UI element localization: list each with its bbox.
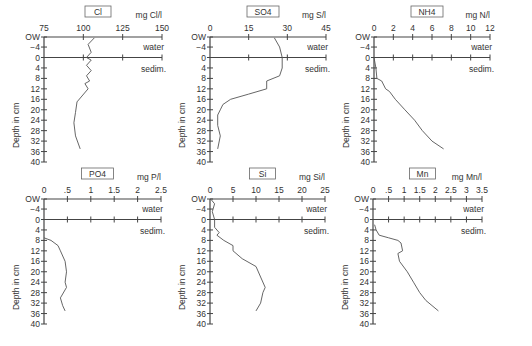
chart-po4-ytick-label: 8: [35, 235, 40, 245]
chart-mn-ytick-label: 40: [360, 319, 370, 329]
chart-mn-ytick-label: 32: [360, 298, 370, 308]
chart-mn-ytick-label: 20: [360, 267, 370, 277]
chart-mn-ytick-label: 28: [360, 288, 370, 298]
chart-cl-ytick-label: 40: [31, 157, 41, 167]
chart-cl-ytick-label: 0: [35, 53, 40, 63]
chart-po4-sediment-label: sedim.: [140, 226, 165, 236]
chart-cl-ytick-label: 12: [31, 84, 41, 94]
chart-so4-ytick-label: 16: [197, 94, 207, 104]
chart-si-ytick-label: 20: [197, 267, 207, 277]
chart-so4-unit: mg S/l: [302, 10, 326, 20]
chart-si-title: Si: [259, 169, 267, 179]
chart-so4-water-label: water: [306, 42, 328, 52]
chart-si-xtick-label: 0: [208, 185, 213, 195]
chart-so4-xtick-label: 30: [283, 23, 293, 33]
chart-nh4-ytick-label: 36: [361, 147, 371, 157]
chart-so4-ytick-label: −4: [196, 42, 206, 52]
chart-nh4-xtick-label: 0: [372, 23, 377, 33]
chart-cl-xtick-label: 150: [155, 23, 169, 33]
chart-po4-ytick-label: OW: [25, 194, 40, 204]
chart-so4-xtick-label: 45: [321, 23, 331, 33]
chart-so4-xtick-label: 0: [208, 23, 213, 33]
chart-so4-ytick-label: 40: [197, 157, 207, 167]
chart-po4-xtick-label: 1: [88, 185, 93, 195]
chart-po4-ytick-label: 24: [31, 277, 41, 287]
chart-nh4-xtick-label: 12: [485, 23, 495, 33]
chart-nh4-ytick-label: 32: [361, 136, 371, 146]
chart-nh4-sediment-label: sedim.: [469, 64, 494, 74]
chart-nh4-ytick-label: −4: [360, 42, 370, 52]
chart-po4-profile-line: [44, 238, 67, 311]
chart-po4-ytick-label: 4: [35, 225, 40, 235]
chart-mn-ytick-label: −4: [359, 204, 369, 214]
chart-so4-ytick-label: 28: [197, 126, 207, 136]
chart-nh4-ytick-label: 20: [361, 105, 371, 115]
chart-nh4-ytick-label: OW: [355, 32, 370, 42]
chart-mn-xtick-label: 2: [433, 185, 438, 195]
chart-nh4-ytick-label: 24: [361, 115, 371, 125]
chart-cl-ytick-label: 8: [35, 73, 40, 83]
chart-po4-xtick-label: 1.5: [108, 185, 120, 195]
chart-mn-ytick-label: 0: [364, 215, 369, 225]
chart-nh4-ytick-label: 16: [361, 94, 371, 104]
chart-mn-xtick-label: 1: [402, 185, 407, 195]
chart-nh4-xtick-label: 10: [466, 23, 476, 33]
chart-nh4-profile-line: [374, 58, 444, 149]
chart-mn-water-label: water: [462, 204, 484, 214]
chart-si-ylabel: Depth in cm: [177, 265, 187, 310]
chart-si-xtick-label: 25: [320, 185, 330, 195]
chart-mn-ytick-label: 4: [364, 225, 369, 235]
chart-po4-ytick-label: 16: [31, 256, 41, 266]
chart-nh4-ytick-label: 12: [361, 84, 371, 94]
chart-mn-xtick-label: 3: [464, 185, 469, 195]
chart-si-profile-line: [211, 200, 265, 311]
chart-cl-xtick-label: 125: [116, 23, 130, 33]
chart-mn-xtick-label: 1.5: [414, 185, 426, 195]
chart-mn-xtick-label: .5: [385, 185, 392, 195]
chart-si-ytick-label: OW: [191, 194, 206, 204]
chart-cl-water-label: water: [142, 42, 164, 52]
chart-cl-profile-line: [74, 38, 94, 149]
chart-nh4-ytick-label: 4: [365, 63, 370, 73]
chart-mn-ytick-label: 12: [360, 246, 370, 256]
chart-si-ytick-label: 28: [197, 288, 207, 298]
chart-so4-ytick-label: 20: [197, 105, 207, 115]
chart-si-ytick-label: 36: [197, 309, 207, 319]
chart-nh4-title: NH4: [418, 7, 435, 17]
chart-mn-ytick-label: 8: [364, 235, 369, 245]
chart-mn-profile-line: [375, 225, 439, 311]
chart-po4-ytick-label: 36: [31, 309, 41, 319]
chart-si-ytick-label: 12: [197, 246, 207, 256]
chart-so4-xtick-label: 15: [244, 23, 254, 33]
chart-mn-title: Mn: [417, 169, 429, 179]
chart-po4-ytick-label: 28: [31, 288, 41, 298]
chart-cl-ytick-label: 4: [35, 63, 40, 73]
chart-po4-water-label: water: [141, 204, 163, 214]
chart-cl-ytick-label: 28: [31, 126, 41, 136]
chart-si-sediment-label: sedim.: [304, 226, 329, 236]
chart-cl-ytick-label: 20: [31, 105, 41, 115]
chart-si-xtick-label: 20: [297, 185, 307, 195]
chart-so4-ytick-label: 32: [197, 136, 207, 146]
chart-mn-xtick-label: 0: [371, 185, 376, 195]
chart-po4-ytick-label: 20: [31, 267, 41, 277]
chart-so4-ytick-label: 36: [197, 147, 207, 157]
chart-cl-xtick-label: 75: [39, 23, 49, 33]
chart-mn-xtick-label: 2.5: [445, 185, 457, 195]
chart-nh4-unit: mg N/l: [465, 10, 490, 20]
chart-po4-ylabel: Depth in cm: [11, 265, 21, 310]
chart-cl-ytick-label: 16: [31, 94, 41, 104]
chart-cl-ytick-label: 24: [31, 115, 41, 125]
chart-nh4-ytick-label: 40: [361, 157, 371, 167]
chart-si-ytick-label: 0: [201, 215, 206, 225]
chart-po4-xtick-label: .5: [64, 185, 71, 195]
chart-cl-unit: mg Cl/l: [136, 10, 163, 20]
chart-nh4-ytick-label: 0: [365, 53, 370, 63]
chart-si-ytick-label: 24: [197, 277, 207, 287]
chart-po4-xtick-label: 2.5: [155, 185, 167, 195]
chart-nh4-ytick-label: 28: [361, 126, 371, 136]
chart-nh4-xtick-label: 4: [410, 23, 415, 33]
chart-nh4-xtick-label: 6: [430, 23, 435, 33]
chart-si-unit: mg Si/l: [299, 172, 325, 182]
chart-po4-ytick-label: 12: [31, 246, 41, 256]
